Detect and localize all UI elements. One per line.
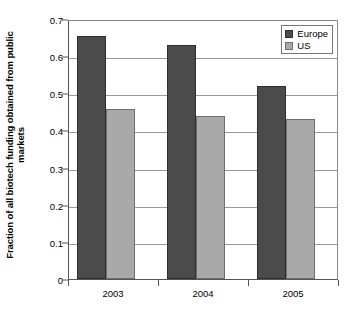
legend-swatch-europe-icon [285,30,293,38]
legend-item-europe: Europe [285,28,328,39]
y-axis-title-line-1: Fraction of all biotech funding obtained… [4,31,15,259]
x-tick-label-2004: 2004 [173,288,233,299]
legend-item-us: US [285,40,328,51]
gridline [69,95,337,96]
plot-area: Europe US [68,20,338,280]
bar-europe-2004 [167,45,196,279]
gridline [69,58,337,59]
x-tick-label-2005: 2005 [263,288,323,299]
x-tick-mark [158,280,159,286]
y-axis-title-line-2: markets [15,31,26,259]
bar-us-2003 [106,109,135,279]
bar-chart-figure: Fraction of all biotech funding obtained… [0,0,357,316]
bar-us-2005 [286,119,315,279]
y-tick-label: 0.7 [29,15,63,26]
x-tick-mark [338,280,339,286]
y-tick-label: 0.2 [29,200,63,211]
chart-legend: Europe US [281,25,333,54]
x-tick-label-2003: 2003 [83,288,143,299]
x-tick-mark [248,280,249,286]
y-tick-label: 0.5 [29,89,63,100]
y-tick-label: 0.4 [29,126,63,137]
y-tick-label: 0.6 [29,52,63,63]
bar-europe-2003 [77,36,106,279]
bar-europe-2005 [257,86,286,279]
x-tick-mark [68,280,69,286]
y-axis-title: Fraction of all biotech funding obtained… [0,0,30,290]
legend-label-us: US [297,40,310,51]
y-tick-label: 0.1 [29,237,63,248]
legend-swatch-us-icon [285,42,293,50]
y-tick-label: 0.3 [29,163,63,174]
bar-us-2004 [196,116,225,279]
legend-label-europe: Europe [297,28,328,39]
y-tick-label: 0 [29,275,63,286]
